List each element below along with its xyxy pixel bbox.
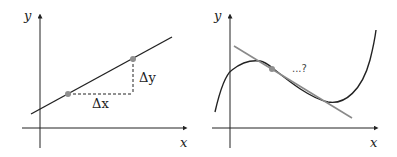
right-x-axis-label: x bbox=[370, 135, 378, 150]
tangent-point bbox=[269, 66, 275, 72]
point-b bbox=[130, 56, 136, 62]
diagram-canvas: y x Δy Δx y x ...? bbox=[0, 0, 397, 157]
right-y-axis-label: y bbox=[213, 8, 222, 23]
delta-x-label: Δx bbox=[92, 96, 109, 111]
point-a bbox=[65, 91, 71, 97]
right-panel: y x ...? bbox=[212, 8, 378, 150]
delta-y-label: Δy bbox=[139, 70, 156, 85]
left-y-axis-label: y bbox=[23, 8, 32, 23]
tangent-annotation: ...? bbox=[292, 63, 307, 74]
left-panel: y x Δy Δx bbox=[22, 8, 188, 150]
left-x-axis-label: x bbox=[180, 135, 188, 150]
tangent-line bbox=[234, 46, 352, 118]
